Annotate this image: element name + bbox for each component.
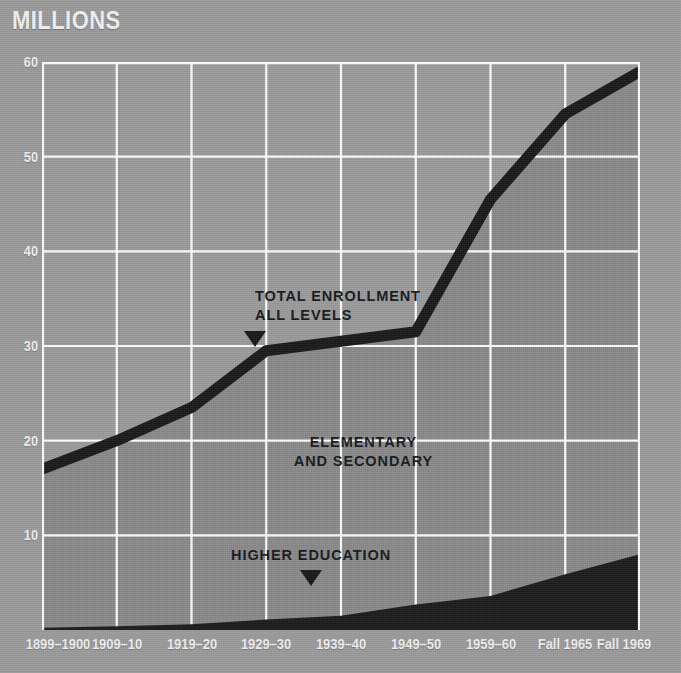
x-axis-tick-label: 1909–10: [92, 636, 142, 652]
y-axis-tick-label: 20: [9, 432, 38, 449]
y-axis-tick-label: 10: [9, 526, 38, 543]
y-axis-tick-label: 50: [9, 148, 38, 165]
y-axis-tick-label: 30: [9, 337, 38, 354]
x-axis-tick-label: 1899–1900: [26, 636, 90, 652]
annotation-elementary-line2: AND SECONDARY: [294, 452, 433, 471]
down-triangle-icon-total: [244, 331, 266, 347]
annotation-total-enrollment-line2: ALL LEVELS: [255, 306, 421, 325]
annotation-elementary-secondary: ELEMENTARY AND SECONDARY: [294, 433, 433, 471]
x-axis-tick-label: 1949–50: [391, 636, 441, 652]
annotation-higher-education: HIGHER EDUCATION: [231, 546, 391, 565]
x-axis-tick-label: Fall 1965: [538, 636, 592, 652]
x-axis-tick-label: 1939–40: [316, 636, 366, 652]
annotation-elementary-line1: ELEMENTARY: [294, 433, 433, 452]
x-axis: 1899–19001909–101919–201929–301939–40194…: [0, 636, 681, 660]
x-axis-tick-label: 1929–30: [241, 636, 291, 652]
x-axis-tick-label: 1959–60: [465, 636, 515, 652]
annotation-total-enrollment-line1: TOTAL ENROLLMENT: [255, 287, 421, 306]
x-axis-tick-label: 1919–20: [166, 636, 216, 652]
y-axis: 605040302010: [0, 62, 38, 630]
annotation-total-enrollment: TOTAL ENROLLMENT ALL LEVELS: [255, 287, 421, 325]
chart-axis-unit-title: MILLIONS: [12, 6, 121, 35]
annotation-higher-education-line1: HIGHER EDUCATION: [231, 546, 391, 565]
y-axis-tick-label: 60: [9, 53, 38, 70]
x-axis-tick-label: Fall 1969: [597, 636, 651, 652]
y-axis-tick-label: 40: [9, 242, 38, 259]
down-triangle-icon-higher: [300, 570, 322, 586]
